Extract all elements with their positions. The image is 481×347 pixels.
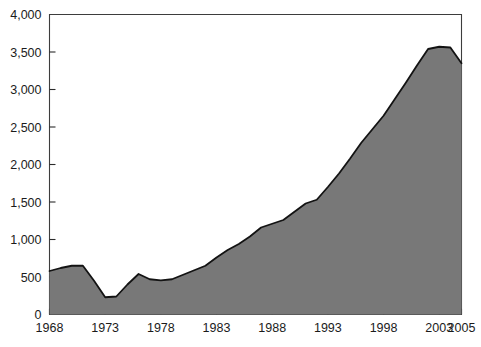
data-area <box>50 47 462 315</box>
x-tick-label: 2005 <box>448 321 476 335</box>
y-tick-label: 3,000 <box>10 83 41 97</box>
chart-container: 05001,0001,5002,0002,5003,0003,5004,000 … <box>0 0 481 347</box>
y-tick-label: 3,500 <box>10 46 41 60</box>
area-chart: 05001,0001,5002,0002,5003,0003,5004,000 … <box>0 0 481 347</box>
area-series-fill <box>50 47 462 315</box>
y-tick-label: 4,000 <box>10 8 41 22</box>
x-tick-label: 1998 <box>370 321 398 335</box>
y-axis-ticks <box>50 52 56 277</box>
x-tick-label: 1973 <box>91 321 119 335</box>
y-tick-label: 1,000 <box>10 233 41 247</box>
y-axis-labels: 05001,0001,5002,0002,5003,0003,5004,000 <box>10 8 41 322</box>
x-tick-label: 1983 <box>203 321 231 335</box>
y-tick-label: 2,000 <box>10 158 41 172</box>
x-tick-label: 1993 <box>314 321 342 335</box>
x-tick-label: 1988 <box>258 321 286 335</box>
y-tick-label: 500 <box>21 271 42 285</box>
x-tick-label: 1978 <box>147 321 175 335</box>
x-axis-labels: 196819731978198319881993199820032005 <box>36 321 476 335</box>
y-tick-label: 1,500 <box>10 196 41 210</box>
y-tick-label: 2,500 <box>10 121 41 135</box>
x-tick-label: 1968 <box>36 321 64 335</box>
